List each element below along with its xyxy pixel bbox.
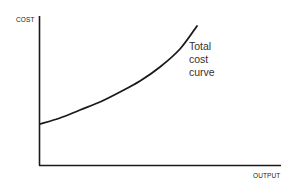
y-axis-label: COST [16, 16, 34, 23]
total-cost-curve [40, 26, 197, 124]
annotation-line-2: cost [189, 53, 215, 66]
x-axis-label: OUTPUT [253, 172, 280, 179]
curve-annotation: Total cost curve [189, 40, 215, 79]
total-cost-chart [0, 0, 300, 188]
annotation-line-3: curve [189, 66, 215, 79]
annotation-line-1: Total [189, 40, 215, 53]
